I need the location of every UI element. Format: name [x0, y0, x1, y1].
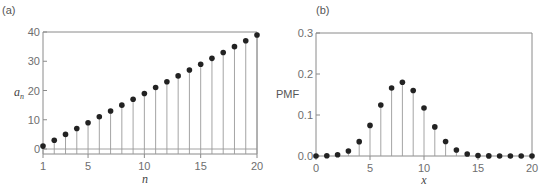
y-tick-label: 0.2 [298, 68, 313, 80]
x-tick-label: 5 [367, 162, 373, 174]
data-point [486, 153, 492, 159]
x-axis-label: n [142, 172, 148, 186]
data-point [130, 96, 136, 102]
data-point [367, 123, 373, 129]
data-point [432, 124, 438, 130]
y-tick-label: 20 [28, 85, 40, 97]
y-tick-label: 0.1 [298, 109, 313, 121]
x-tick-label: 1 [40, 160, 46, 172]
chart-panel-b: 0.00.10.20.305101520(b)xPMF [276, 4, 538, 187]
data-point [454, 147, 460, 153]
data-point [356, 139, 362, 145]
data-point [443, 139, 449, 145]
data-point [518, 153, 524, 159]
data-point [410, 88, 416, 94]
x-tick-label: 20 [251, 160, 263, 172]
chart-panel-a: 01020304015101520(a)nan [2, 4, 263, 186]
data-point [400, 80, 406, 86]
data-point [97, 114, 103, 120]
data-point [464, 151, 470, 157]
data-point [164, 79, 170, 85]
panel-label: (a) [2, 4, 15, 16]
data-point [63, 132, 69, 138]
data-point [313, 153, 319, 159]
y-tick-label: 40 [28, 26, 40, 38]
data-point [389, 85, 395, 91]
x-axis-label: x [420, 173, 427, 187]
data-point [119, 102, 125, 108]
data-point [232, 44, 238, 50]
y-tick-label: 10 [28, 114, 40, 126]
data-point [243, 38, 249, 44]
x-tick-label: 0 [313, 162, 319, 174]
data-point [209, 56, 215, 62]
x-tick-label: 10 [138, 160, 150, 172]
data-point [421, 105, 427, 111]
data-point [40, 143, 46, 149]
data-point [508, 153, 514, 159]
data-point [378, 102, 384, 108]
data-point [85, 120, 91, 126]
y-tick-label: 0.0 [298, 150, 313, 162]
data-point [142, 91, 148, 97]
data-point [497, 153, 503, 159]
y-tick-label: 0.3 [298, 27, 313, 39]
data-point [335, 152, 341, 158]
y-axis-label-subscript: n [20, 92, 24, 101]
x-tick-label: 15 [472, 162, 484, 174]
y-tick-label: 0 [34, 143, 40, 155]
x-tick-label: 15 [195, 160, 207, 172]
data-point [187, 67, 193, 73]
data-point [529, 153, 535, 159]
data-point [175, 73, 181, 79]
data-point [220, 50, 226, 56]
x-tick-label: 20 [526, 162, 538, 174]
figure: 01020304015101520(a)nan 0.00.10.20.30510… [0, 0, 548, 194]
panel-label: (b) [316, 4, 329, 16]
data-point [346, 148, 352, 154]
data-point [51, 137, 57, 143]
data-point [153, 85, 159, 91]
data-point [198, 61, 204, 67]
y-tick-label: 30 [28, 55, 40, 67]
data-point [254, 32, 260, 38]
data-point [74, 126, 80, 132]
y-axis-label: PMF [276, 88, 300, 100]
data-point [324, 153, 330, 159]
data-point [475, 153, 481, 159]
y-axis-label: an [14, 85, 24, 101]
data-point [108, 108, 114, 114]
x-tick-label: 5 [85, 160, 91, 172]
